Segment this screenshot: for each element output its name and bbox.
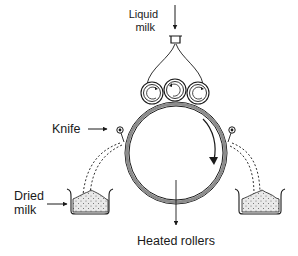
collection-tray-left	[67, 189, 113, 214]
liquid-milk-label-line2: milk	[135, 21, 155, 33]
falling-powder-left-2	[90, 145, 122, 195]
heated-rollers-label: Heated rollers	[137, 234, 215, 248]
dried-milk-powder-left	[73, 190, 108, 212]
roller-drying-diagram: Liquid milk Heated rollers Knife	[0, 0, 298, 256]
dried-milk-powder-right	[242, 190, 279, 212]
dried-milk-label-line2: milk	[14, 203, 37, 217]
dried-milk-label-line1: Dried	[14, 189, 44, 203]
knife-left	[117, 127, 124, 142]
falling-powder-right-2	[230, 146, 254, 195]
feed-line-left	[147, 44, 175, 84]
feed-roller-middle	[164, 79, 186, 101]
knife-right	[228, 127, 235, 142]
feed-nozzle	[169, 36, 182, 43]
feed-roller-left	[141, 82, 163, 104]
feed-roller-right	[187, 82, 209, 104]
liquid-milk-label: Liquid milk	[129, 8, 158, 33]
falling-powder-left-1	[83, 143, 120, 195]
liquid-milk-label-line1: Liquid	[129, 8, 158, 20]
knife-label: Knife	[52, 122, 81, 136]
falling-powder-right-1	[232, 143, 260, 195]
feed-line-right	[176, 44, 203, 84]
collection-tray-right	[235, 189, 285, 214]
